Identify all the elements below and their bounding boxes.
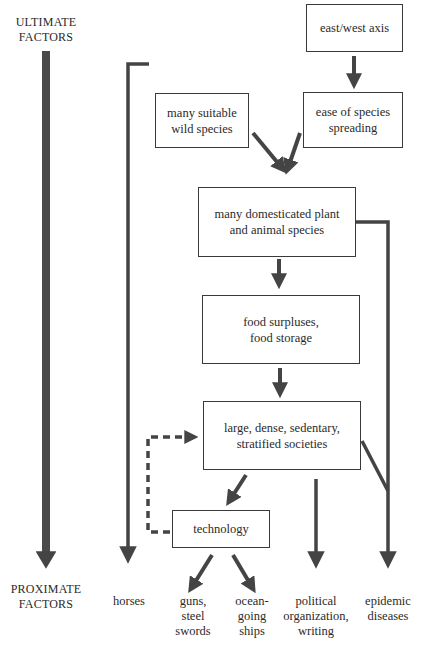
arrow-wild-to-domesticated: [253, 133, 282, 168]
arrow-spreading-to-domesticated: [288, 133, 300, 168]
outcome-ships: ocean- going ships: [229, 594, 275, 639]
node-domesticated: many domesticated plant and animal speci…: [198, 187, 356, 257]
outcome-epidemic: epidemic diseases: [358, 594, 418, 624]
ultimate-factors-label: ULTIMATE FACTORS: [0, 15, 92, 45]
node-societies: large, dense, sedentary, stratified soci…: [203, 401, 361, 470]
arrow-domesticated-to-epidemic: [356, 222, 388, 560]
node-east-west-axis: east/west axis: [306, 4, 403, 52]
arrow-technology-to-guns: [192, 555, 212, 587]
outcome-political: political organization, writing: [278, 594, 354, 639]
node-wild-species: many suitable wild species: [155, 93, 249, 148]
node-species-spreading: ease of species spreading: [303, 92, 403, 148]
arrow-societies-to-epidemic: [362, 441, 388, 491]
outcome-guns: guns, steel swords: [170, 594, 216, 639]
arrow-societies-to-technology: [230, 475, 246, 500]
outcome-horses: horses: [106, 594, 152, 609]
arrow-wild-to-horses: [128, 64, 149, 555]
proximate-factors-label: PROXIMATE FACTORS: [0, 582, 92, 612]
node-food-surplus: food surpluses, food storage: [202, 295, 360, 364]
node-technology: technology: [172, 510, 270, 548]
arrow-technology-to-ships: [233, 555, 252, 587]
